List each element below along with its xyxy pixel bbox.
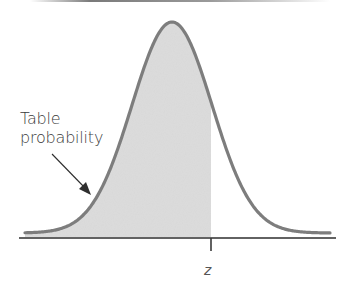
callout-arrow: [52, 154, 91, 195]
callout-line-1: Table: [20, 109, 103, 128]
table-probability-label: Table probability: [20, 109, 103, 147]
z-axis-label: z: [204, 261, 211, 280]
callout-line-2: probability: [20, 128, 103, 147]
